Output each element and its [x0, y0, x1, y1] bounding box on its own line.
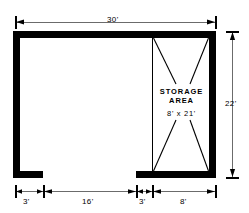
floor-plan-drawing: 30' 22' STORAGE AREA 8' x 21': [0, 0, 249, 213]
bottom-dimension-label-3: 8': [180, 198, 187, 206]
bottom-dimension-label-1: 16': [82, 198, 94, 206]
bottom-dimension-arrowheads: [0, 0, 249, 213]
bottom-dimension-label-0: 3': [23, 198, 30, 206]
bottom-dimension-label-2: 3': [139, 198, 146, 206]
